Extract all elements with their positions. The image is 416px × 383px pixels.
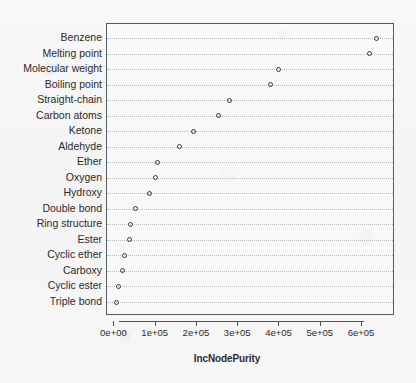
gridline xyxy=(107,271,393,272)
x-axis-line xyxy=(119,321,364,322)
y-axis-label: Aldehyde xyxy=(0,140,102,151)
gridline xyxy=(107,162,393,163)
y-axis-label: Benzene xyxy=(0,32,102,43)
y-axis-category-labels: BenzeneMelting pointMolecular weightBoil… xyxy=(0,23,102,315)
y-axis-label: Double bond xyxy=(0,202,102,213)
x-tick-mark xyxy=(155,321,156,326)
y-axis-label: Melting point xyxy=(0,47,102,58)
data-point xyxy=(276,67,281,72)
data-point xyxy=(147,191,152,196)
data-point xyxy=(374,36,379,41)
data-point xyxy=(155,160,160,165)
y-axis-label: Carbon atoms xyxy=(0,109,102,120)
x-tick-label: 6e+05 xyxy=(348,327,375,338)
data-point xyxy=(268,82,273,87)
data-point xyxy=(227,98,232,103)
gridline xyxy=(107,147,393,148)
y-axis-label: Triple bond xyxy=(0,296,102,307)
gridline xyxy=(107,69,393,70)
y-axis-label: Ether xyxy=(0,156,102,167)
gridline xyxy=(107,224,393,225)
data-point xyxy=(153,175,158,180)
data-point xyxy=(114,300,119,305)
data-point xyxy=(122,253,127,258)
y-axis-label: Hydroxy xyxy=(0,187,102,198)
plot-panel xyxy=(106,23,394,315)
y-axis-label: Boiling point xyxy=(0,78,102,89)
chart-screenshot: BenzeneMelting pointMolecular weightBoil… xyxy=(0,0,416,383)
x-tick-label: 4e+05 xyxy=(265,327,292,338)
data-point xyxy=(127,237,132,242)
data-point xyxy=(367,51,372,56)
x-tick-mark xyxy=(237,321,238,326)
gridline xyxy=(107,178,393,179)
gridline xyxy=(107,54,393,55)
gridline xyxy=(107,100,393,101)
y-axis-label: Cyclic ester xyxy=(0,280,102,291)
gridline xyxy=(107,255,393,256)
y-axis-label: Molecular weight xyxy=(0,63,102,74)
gridline xyxy=(107,85,393,86)
data-point xyxy=(177,144,182,149)
x-tick-mark xyxy=(320,321,321,326)
y-axis-label: Ester xyxy=(0,233,102,244)
y-axis-label: Straight-chain xyxy=(0,94,102,105)
y-axis-label: Ketone xyxy=(0,125,102,136)
variable-importance-dotplot: BenzeneMelting pointMolecular weightBoil… xyxy=(0,0,416,383)
x-axis-title: IncNodePurity xyxy=(0,353,416,364)
y-axis-label: Ring structure xyxy=(0,218,102,229)
gridline xyxy=(107,302,393,303)
gridline xyxy=(107,240,393,241)
y-axis-label: Cyclic ether xyxy=(0,249,102,260)
x-tick-label: 2e+05 xyxy=(183,327,210,338)
x-tick-label: 5e+05 xyxy=(306,327,333,338)
x-axis-title-text: IncNodePurity xyxy=(194,353,261,364)
gridline xyxy=(107,209,393,210)
x-tick-mark xyxy=(113,321,114,326)
x-tick-label: 0e+00 xyxy=(100,327,127,338)
x-tick-mark xyxy=(196,321,197,326)
x-tick-mark xyxy=(361,321,362,326)
gridline xyxy=(107,286,393,287)
data-point xyxy=(216,113,221,118)
gridline xyxy=(107,38,393,39)
data-point xyxy=(120,268,125,273)
data-point xyxy=(133,206,138,211)
data-point xyxy=(128,222,133,227)
x-axis: 0e+001e+052e+053e+054e+055e+056e+05 xyxy=(106,315,394,355)
data-point xyxy=(116,284,121,289)
x-tick-label: 1e+05 xyxy=(141,327,168,338)
y-axis-label: Carboxy xyxy=(0,264,102,275)
y-axis-label: Oxygen xyxy=(0,171,102,182)
x-tick-label: 3e+05 xyxy=(224,327,251,338)
x-tick-mark xyxy=(278,321,279,326)
gridline xyxy=(107,116,393,117)
gridline xyxy=(107,131,393,132)
data-point xyxy=(191,129,196,134)
